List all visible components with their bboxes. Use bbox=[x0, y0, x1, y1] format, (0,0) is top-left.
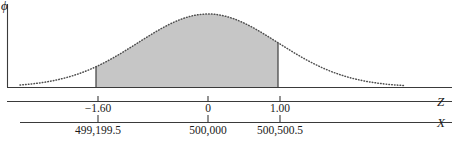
x-tick-label-lower: 499,199.5 bbox=[75, 124, 121, 137]
shaded-area-region bbox=[96, 14, 278, 87]
z-tick-label-mean: 0 bbox=[205, 102, 211, 114]
z-tick-label-upper: 1.00 bbox=[270, 102, 290, 114]
y-axis-label: ϕ bbox=[1, 0, 8, 13]
x-tick-label-upper: 500,500.5 bbox=[257, 124, 303, 137]
x-axis-label: X bbox=[436, 115, 446, 130]
figure-svg: ϕ −1.60 0 1.00 Z 499,199.5 500,000 500,5… bbox=[0, 0, 452, 142]
z-axis-label: Z bbox=[437, 94, 445, 109]
normal-distribution-figure: ϕ −1.60 0 1.00 Z 499,199.5 500,000 500,5… bbox=[0, 0, 452, 142]
z-tick-label-lower: −1.60 bbox=[85, 102, 112, 114]
x-tick-label-mean: 500,000 bbox=[189, 124, 227, 137]
